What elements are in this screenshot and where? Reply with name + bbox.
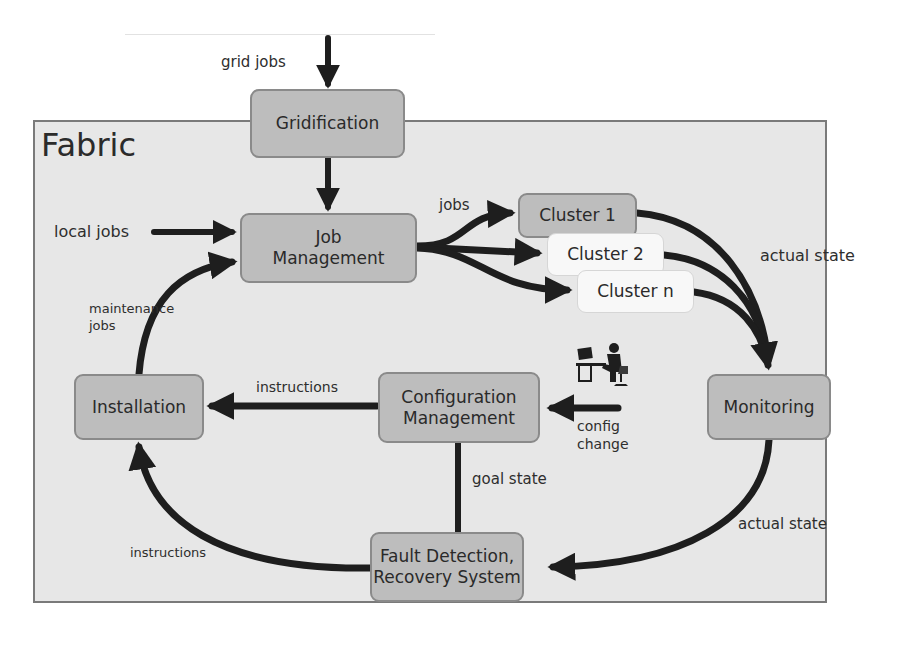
node-installation: Installation [74,374,204,440]
node-job-management: Job Management [240,213,417,283]
arrow-jobs-cluster-1 [417,213,510,246]
node-cluster-1: Cluster 1 [518,193,637,238]
label-jobs: jobs [439,196,470,215]
node-gridification: Gridification [250,89,405,158]
label-local-jobs: local jobs [54,222,129,241]
arrow-actual-state-bottom [553,440,769,567]
label-config-change: config change [577,417,629,453]
node-configuration-management: Configuration Management [378,372,540,443]
label-maintenance-jobs: maintenance jobs [89,300,174,334]
node-fault-detection-recovery: Fault Detection, Recovery System [370,532,524,602]
arrow-jobs-cluster-n [417,248,567,290]
person-at-computer-icon [574,342,636,398]
label-actual-state-bottom: actual state [738,515,827,534]
label-goal-state: goal state [472,470,547,489]
label-grid-jobs: grid jobs [221,53,286,72]
label-instructions-bottom: instructions [130,543,206,562]
node-cluster-n: Cluster n [577,270,694,313]
node-monitoring: Monitoring [707,374,831,440]
label-instructions-top: instructions [256,378,338,397]
label-actual-state-top: actual state [760,246,855,265]
